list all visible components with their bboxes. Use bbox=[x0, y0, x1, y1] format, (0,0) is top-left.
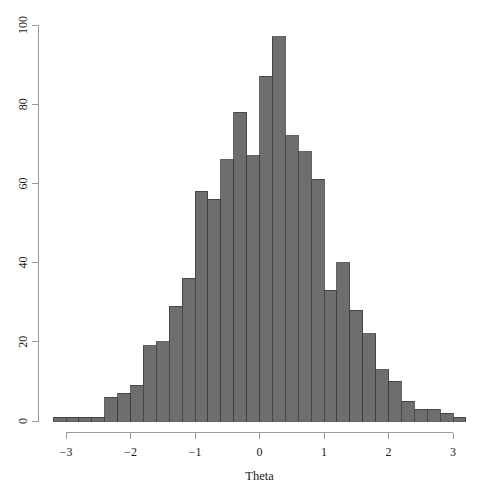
histogram-bar bbox=[337, 263, 350, 421]
histogram-bar bbox=[311, 179, 324, 421]
x-axis-tick-label: 0 bbox=[257, 445, 263, 459]
x-axis: −3−2−10123 bbox=[60, 433, 456, 460]
histogram-bar bbox=[131, 385, 144, 421]
histogram-bar bbox=[363, 334, 376, 421]
histogram-bar bbox=[285, 136, 298, 421]
histogram-bar bbox=[453, 417, 466, 421]
x-axis-title: Theta bbox=[245, 469, 274, 483]
histogram-bar bbox=[234, 112, 247, 421]
histogram-bar bbox=[247, 156, 260, 421]
histogram-bar bbox=[105, 397, 118, 421]
histogram-bar bbox=[298, 152, 311, 421]
histogram-bars-group bbox=[53, 37, 466, 421]
histogram-bar bbox=[401, 401, 414, 421]
histogram-bar bbox=[143, 346, 156, 421]
histogram-bar bbox=[156, 342, 169, 421]
histogram-bar bbox=[182, 278, 195, 421]
histogram-bar bbox=[118, 393, 131, 421]
histogram-bar bbox=[66, 417, 79, 421]
histogram-bar bbox=[260, 76, 273, 421]
x-axis-tick-label: 2 bbox=[386, 445, 392, 459]
y-axis-tick-label: 20 bbox=[16, 336, 30, 348]
x-axis-tick-label: 3 bbox=[450, 445, 456, 459]
histogram-bar bbox=[79, 417, 92, 421]
y-axis-tick-label: 40 bbox=[16, 257, 30, 269]
y-axis-tick-label: 60 bbox=[16, 177, 30, 189]
histogram-plot-panel: 020406080100 −3−2−10123 Theta bbox=[0, 0, 479, 492]
y-axis-tick-label: 100 bbox=[16, 16, 30, 34]
histogram-bar bbox=[414, 409, 427, 421]
histogram-bar bbox=[208, 199, 221, 421]
histogram-bar bbox=[169, 306, 182, 421]
histogram-bar bbox=[272, 37, 285, 421]
histogram-bar bbox=[427, 409, 440, 421]
x-axis-tick-label: 1 bbox=[321, 445, 327, 459]
histogram-bar bbox=[92, 417, 105, 421]
histogram-bar bbox=[376, 370, 389, 421]
y-axis-tick-label: 80 bbox=[16, 98, 30, 110]
histogram-bar bbox=[440, 413, 453, 421]
histogram-bar bbox=[350, 310, 363, 421]
histogram-bar bbox=[195, 191, 208, 421]
histogram-bar bbox=[221, 160, 234, 421]
histogram-bar bbox=[389, 381, 402, 421]
y-axis-ticks: 020406080100 bbox=[16, 16, 39, 424]
y-axis-tick-label: 0 bbox=[16, 418, 30, 424]
histogram-bar bbox=[53, 417, 66, 421]
x-axis-tick-label: −1 bbox=[189, 445, 202, 459]
x-axis-ticks: −3−2−10123 bbox=[60, 433, 456, 460]
y-axis: 020406080100 bbox=[16, 16, 39, 424]
histogram-bar bbox=[324, 290, 337, 421]
x-axis-tick-label: −2 bbox=[124, 445, 137, 459]
histogram-chart: 020406080100 −3−2−10123 Theta bbox=[0, 0, 479, 492]
x-axis-tick-label: −3 bbox=[60, 445, 73, 459]
